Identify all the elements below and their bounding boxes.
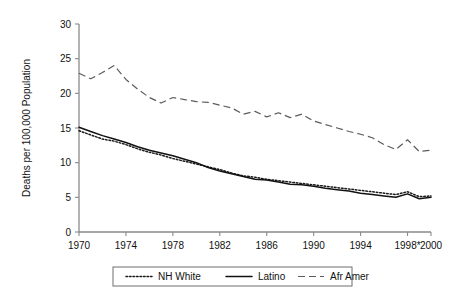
x-tick-label: 1974 bbox=[115, 240, 138, 251]
y-tick-label: 20 bbox=[60, 88, 72, 99]
x-tick-label: 1978 bbox=[162, 240, 185, 251]
chart-legend: NH WhiteLatinoAfr Amer bbox=[113, 267, 370, 286]
y-axis-ticks: 051015202530 bbox=[60, 19, 79, 238]
x-tick-label: 1994 bbox=[349, 240, 372, 251]
chart-container: Deaths per 100,000 Population 0510152025… bbox=[0, 0, 452, 298]
x-axis-ticks: 19701974197819821986199019941998*2000 bbox=[68, 232, 443, 251]
legend-label-nh-white: NH White bbox=[158, 271, 201, 282]
x-tick-label: 2000 bbox=[420, 240, 443, 251]
legend-label-afr-amer: Afr Amer bbox=[330, 271, 370, 282]
y-tick-label: 5 bbox=[65, 192, 71, 203]
y-tick-label: 15 bbox=[60, 123, 72, 134]
series-line-afr-amer bbox=[79, 66, 431, 152]
x-tick-label: 1998* bbox=[394, 240, 420, 251]
legend-label-latino: Latino bbox=[258, 271, 286, 282]
y-tick-label: 25 bbox=[60, 53, 72, 64]
x-tick-label: 1990 bbox=[303, 240, 326, 251]
y-tick-label: 0 bbox=[65, 227, 71, 238]
x-tick-label: 1986 bbox=[256, 240, 279, 251]
y-axis-title: Deaths per 100,000 Population bbox=[21, 59, 32, 197]
x-tick-label: 1970 bbox=[68, 240, 91, 251]
y-tick-label: 30 bbox=[60, 19, 72, 30]
y-tick-label: 10 bbox=[60, 157, 72, 168]
series-line-latino bbox=[79, 127, 431, 198]
x-tick-label: 1982 bbox=[209, 240, 232, 251]
line-chart: Deaths per 100,000 Population 0510152025… bbox=[0, 0, 452, 298]
